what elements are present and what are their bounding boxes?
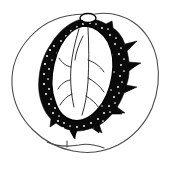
fruit-cross-section-illustration [0,0,173,169]
figure-container: Fruit cross-section line drawing [0,0,173,169]
